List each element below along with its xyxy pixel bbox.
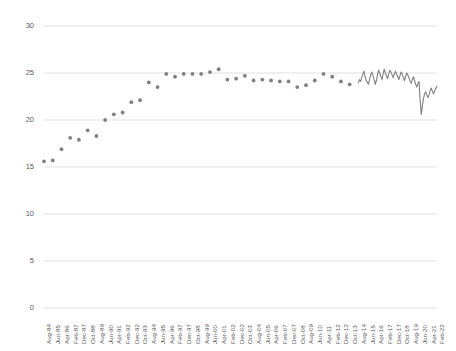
scatter-chart: 051015202530 Aug-84Jun-85Apr-86Feb-87Dec… bbox=[0, 0, 456, 351]
data-point bbox=[260, 78, 264, 82]
data-point bbox=[208, 70, 212, 74]
data-point bbox=[112, 112, 116, 116]
data-point bbox=[156, 85, 160, 89]
data-point bbox=[60, 147, 64, 151]
data-point bbox=[86, 128, 90, 132]
data-point bbox=[68, 136, 72, 140]
y-axis-tick-label: 25 bbox=[14, 69, 34, 77]
data-point bbox=[164, 72, 168, 76]
data-point bbox=[348, 82, 352, 86]
y-axis-tick-label: 15 bbox=[14, 163, 34, 171]
plot-area bbox=[0, 0, 456, 351]
data-point bbox=[304, 83, 308, 87]
data-point bbox=[330, 75, 334, 79]
y-axis-tick-label: 20 bbox=[14, 116, 34, 124]
data-point bbox=[243, 74, 247, 78]
data-point bbox=[278, 80, 282, 84]
data-point bbox=[191, 72, 195, 76]
data-point bbox=[226, 78, 230, 82]
data-point bbox=[51, 159, 55, 163]
data-point bbox=[147, 81, 151, 85]
data-point bbox=[322, 72, 326, 76]
data-point bbox=[103, 118, 107, 122]
y-axis-tick-label: 5 bbox=[14, 257, 34, 265]
data-point bbox=[199, 72, 203, 76]
data-point bbox=[339, 80, 343, 84]
data-line bbox=[358, 69, 437, 114]
data-point bbox=[234, 77, 238, 81]
gridlines bbox=[44, 26, 437, 308]
data-points bbox=[42, 67, 351, 163]
data-point bbox=[129, 100, 133, 104]
y-axis-tick-label: 10 bbox=[14, 210, 34, 218]
data-point bbox=[287, 80, 291, 84]
data-point bbox=[182, 72, 186, 76]
y-axis-tick-label: 30 bbox=[14, 22, 34, 30]
data-point bbox=[252, 79, 256, 83]
data-point bbox=[95, 134, 99, 138]
data-point bbox=[138, 98, 142, 102]
data-point bbox=[269, 79, 273, 83]
data-point bbox=[42, 159, 46, 163]
y-axis-tick-label: 0 bbox=[14, 304, 34, 312]
data-point bbox=[77, 138, 81, 142]
data-point bbox=[121, 111, 125, 115]
data-point bbox=[295, 85, 299, 89]
data-point bbox=[313, 79, 317, 83]
data-point bbox=[217, 67, 221, 71]
data-point bbox=[173, 75, 177, 79]
dense-series-line bbox=[358, 69, 437, 114]
